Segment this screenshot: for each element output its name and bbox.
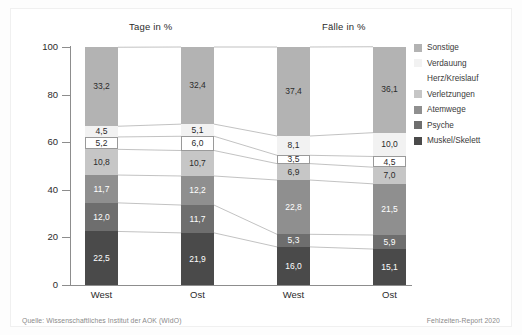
legend-item[interactable]: Atemwege [414,102,514,118]
bar-segment: 8,1 [277,136,310,155]
figure-stacked-bar-chart: Tage in % Fälle in % 020406080100 22,512… [0,0,522,335]
plot-area: 22,512,011,710,85,24,533,221,911,712,210… [70,47,410,285]
x-axis-label: Ost [360,289,420,300]
legend-item[interactable]: Sonstige [414,40,514,56]
y-tick-label: 40 [12,184,58,195]
bar-segment-value: 6,0 [192,139,204,148]
legend-item-label: Verdauung [427,59,467,68]
bar-segment: 21,9 [181,233,214,285]
bar-segment-value: 5,1 [192,126,204,135]
bar-segment: 11,7 [181,205,214,233]
bar-segment-value: 12,0 [93,213,110,222]
x-axis-label: Ost [168,289,228,300]
legend: SonstigeVerdauungHerz/KreislaufVerletzun… [414,40,514,149]
bar-segment-value: 12,2 [189,186,206,195]
legend-item-label: Muskel/Skelett [427,136,480,145]
bar-segment-value: 22,5 [93,254,110,263]
bar-segment-value: 7,0 [384,171,396,180]
bar-segment: 32,4 [181,47,214,124]
y-tick-label: 100 [12,41,58,52]
bar-segment-value: 33,2 [93,82,110,91]
bar-segment-value: 21,9 [189,255,206,264]
bar-segment-value: 4,5 [96,127,108,136]
bar-segment: 3,5 [277,155,310,163]
bar-segment-value: 3,5 [288,155,300,164]
stacked-bar: 21,911,712,210,76,05,132,4 [181,47,214,285]
panel-title-faelle: Fälle in % [322,21,366,32]
legend-item[interactable]: Psyche [414,118,514,134]
legend-swatch-icon [414,59,422,67]
panel-title-tage: Tage in % [129,21,173,32]
legend-item-label: Sonstige [427,43,459,52]
bar-segment-value: 22,8 [285,203,302,212]
legend-item-label: Psyche [427,121,454,130]
y-tick-mark [62,285,71,286]
legend-item[interactable]: Verdauung [414,56,514,72]
bar-segment: 10,0 [373,133,406,157]
y-tick-label: 60 [12,136,58,147]
legend-swatch-icon [414,121,422,129]
bar-segment: 33,2 [85,47,118,126]
bar-segment-value: 6,9 [288,168,300,177]
legend-item[interactable]: Muskel/Skelett [414,133,514,149]
bar-segment-value: 16,0 [285,262,302,271]
bar-segment: 4,5 [373,156,406,167]
bar-segment: 7,0 [373,167,406,184]
bar-segment: 15,1 [373,249,406,285]
bar-segment-value: 11,7 [94,185,110,194]
bar-segment: 5,2 [85,137,118,149]
legend-item-label: Atemwege [427,105,466,114]
bar-segment-value: 36,1 [381,85,398,94]
bar-segment-value: 8,1 [288,141,300,150]
bar-segment-value: 5,3 [288,236,300,245]
legend-item[interactable]: Verletzungen [414,87,514,103]
bar-segment: 5,3 [277,234,310,247]
bar-segment-value: 10,0 [381,140,398,149]
x-axis-label: West [72,289,132,300]
bar-segment-value: 5,9 [384,238,396,247]
bar-segment: 11,7 [85,175,118,203]
x-axis-label: West [264,289,324,300]
bar-segment: 12,0 [85,203,118,232]
stacked-bar: 16,05,322,86,93,58,137,4 [277,47,310,285]
legend-item-label: Herz/Kreislauf [427,74,478,83]
legend-item-label: Verletzungen [427,90,475,99]
x-axis-line [70,285,412,286]
bar-segment-value: 10,7 [189,159,206,168]
bar-segment-value: 10,8 [93,158,110,167]
bar-segment: 5,1 [181,124,214,136]
bar-segment-value: 5,2 [96,139,108,148]
y-tick-label: 0 [12,279,58,290]
report-note: Fehlzeiten-Report 2020 [427,317,500,324]
bar-segment: 6,0 [181,136,214,150]
bar-segment: 5,9 [373,235,406,249]
bar-segment-value: 37,4 [285,87,302,96]
y-tick-label: 20 [12,231,58,242]
bar-segment-value: 4,5 [384,158,396,167]
legend-swatch-icon [414,75,422,83]
bar-segment: 22,5 [85,231,118,285]
bar-segment: 6,9 [277,164,310,180]
legend-item[interactable]: Herz/Kreislauf [414,71,514,87]
legend-swatch-icon [414,90,422,98]
bar-segment: 10,7 [181,151,214,176]
legend-swatch-icon [414,44,422,52]
stacked-bar: 15,15,921,57,04,510,036,1 [373,47,406,285]
bar-segment-value: 11,7 [190,215,206,224]
bar-segment: 16,0 [277,247,310,285]
bar-segment: 12,2 [181,176,214,205]
legend-swatch-icon [414,106,422,114]
bar-segment-value: 15,1 [381,263,398,272]
y-tick-label: 80 [12,89,58,100]
stacked-bar: 22,512,011,710,85,24,533,2 [85,47,118,285]
source-note: Quelle: Wissenschaftliches Institut der … [22,317,182,324]
bar-segment: 22,8 [277,180,310,234]
bar-segment: 37,4 [277,47,310,136]
bar-segment: 4,5 [85,126,118,137]
bar-segment: 21,5 [373,184,406,235]
legend-swatch-icon [414,137,422,145]
bar-segment: 36,1 [373,47,406,133]
bar-segment: 10,8 [85,149,118,175]
bar-segment-value: 21,5 [381,205,398,214]
bar-segment-value: 32,4 [189,81,206,90]
